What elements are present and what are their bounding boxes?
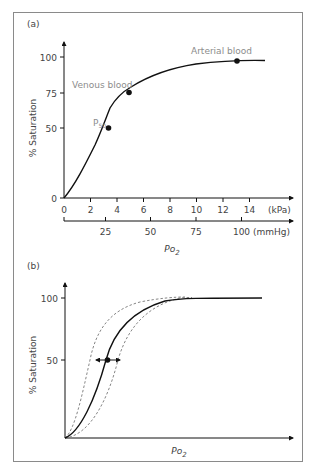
a-y-tick-75: 75 [46,89,57,99]
a-x-unit-mmhg: (mmHg) [253,227,290,237]
b-y-axis-title: % Saturation [28,336,38,394]
a-x-tick-6: 6 [141,205,147,215]
p50-label: P50 [93,118,106,129]
p50-point [106,125,112,131]
panel-a-label: (a) [27,19,40,29]
a-y-tick-100: 100 [40,53,57,63]
arterial-label: Arterial blood [191,46,252,56]
b-left-shifted-curve [65,297,185,438]
a-y-ticks: 100 75 50 0 [40,53,64,204]
b-x-axis-title: Po2 [171,446,187,459]
a-x-tick-12: 12 [217,205,228,215]
b-y-tick-50: 50 [47,356,59,366]
a-x-tick-100mmhg: 100 [233,227,250,237]
a-x-tick-75mmhg: 75 [190,227,201,237]
a-x-unit-kpa: (kPa) [268,205,291,215]
a-x-axis-title: Po2 [164,244,180,257]
a-y-axis-title: % Saturation [28,99,38,157]
b-y-tick-100: 100 [41,294,58,304]
a-x-tick-0: 0 [61,205,67,215]
panel-b: (b) 100 50 % Saturation Po2 [27,261,293,459]
a-x-tick-8: 8 [167,205,173,215]
a-x-tick-4: 4 [114,205,120,215]
venous-label: Venous blood [72,80,132,90]
a-x-tick-10: 10 [191,205,203,215]
a-x-ticks-mmhg: 25 50 75 100 (mmHg) [100,217,290,237]
a-y-tick-0: 0 [51,194,57,204]
oxygen-dissociation-figure: (a) 100 75 50 0 % Saturation 0 2 4 [0,0,314,469]
b-p50-point [105,357,111,363]
a-x-tick-50mmhg: 50 [145,227,157,237]
a-x-tick-25mmhg: 25 [100,227,111,237]
a-y-tick-50: 50 [46,124,58,134]
a-x-tick-14: 14 [244,205,256,215]
venous-point [126,90,132,96]
panel-a: (a) 100 75 50 0 % Saturation 0 2 4 [27,19,293,257]
a-x-ticks-kpa: 0 2 4 6 8 10 12 14 (kPa) [61,198,291,215]
arterial-point [234,58,240,64]
a-x-tick-2: 2 [88,205,94,215]
panel-b-label: (b) [27,261,40,271]
